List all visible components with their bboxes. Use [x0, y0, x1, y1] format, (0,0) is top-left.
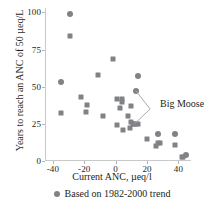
legend-label: Based on 1982-2000 trend	[65, 188, 171, 199]
data-point-marker	[145, 136, 150, 141]
data-point-marker	[135, 73, 141, 79]
data-point-marker	[110, 56, 115, 61]
data-point-marker	[172, 131, 178, 137]
chart-legend: Based on 1982-2000 trend	[0, 188, 224, 199]
data-point-marker	[96, 72, 101, 77]
x-axis-title: Current ANC, µeq/l	[0, 171, 224, 182]
data-point-marker	[68, 34, 73, 39]
y-axis-line	[45, 8, 46, 161]
legend-marker-icon	[54, 191, 60, 197]
data-point-marker	[101, 114, 106, 119]
data-point-marker	[181, 154, 186, 159]
scatter-chart-figure: 0255075100 -40-2002040 Big Moose Current…	[0, 0, 224, 204]
y-tick-label: 100	[27, 7, 45, 17]
annotation-big-moose-label: Big Moose	[160, 98, 204, 109]
data-point-marker	[58, 79, 64, 85]
data-point-marker	[121, 127, 126, 132]
data-point-marker	[155, 131, 161, 137]
data-point-marker	[127, 126, 132, 131]
data-point-marker	[118, 105, 123, 110]
data-point-marker	[126, 114, 131, 119]
plot-area: 0255075100 -40-2002040	[45, 8, 191, 161]
data-point-marker	[58, 111, 63, 116]
data-point-marker	[157, 141, 162, 146]
data-point-marker	[133, 88, 139, 94]
data-point-marker	[119, 99, 124, 104]
y-tick-label: 75	[32, 45, 45, 55]
data-point-marker	[79, 95, 84, 100]
data-point-marker	[115, 123, 120, 128]
y-tick-label: 50	[32, 82, 45, 92]
data-point-marker	[85, 102, 90, 107]
data-point-marker	[83, 109, 88, 114]
y-tick-label: 25	[32, 119, 45, 129]
x-axis-line	[45, 160, 191, 161]
y-tick-label: 0	[36, 156, 45, 166]
data-point-marker	[135, 121, 140, 126]
data-point-marker	[67, 11, 73, 17]
y-axis-title: Years to reach an ANC of 50 µeq/L	[14, 6, 25, 156]
data-point-marker	[173, 142, 178, 147]
data-point-marker	[129, 104, 134, 109]
